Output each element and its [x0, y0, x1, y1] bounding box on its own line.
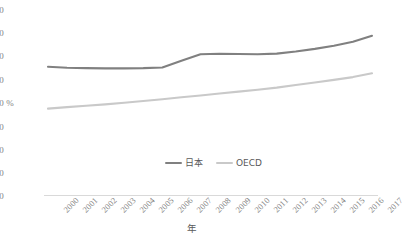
- y-tick-label: 20: [0, 146, 4, 155]
- x-tick-label: 2005: [157, 196, 176, 215]
- x-tick-label: 2006: [176, 196, 195, 215]
- x-tick-label: 2017: [386, 196, 405, 215]
- y-tick-label: 10: [0, 169, 4, 178]
- legend-swatch-icon: [216, 162, 233, 164]
- x-tick-label: 2002: [100, 196, 119, 215]
- y-tick-label: 50: [0, 76, 4, 85]
- y-axis-title: %: [3, 99, 17, 108]
- x-tick-label: 2001: [81, 196, 100, 215]
- legend-item-oecd: OECD: [216, 158, 262, 168]
- x-axis-title: 年: [0, 223, 384, 234]
- x-tick-label: 2008: [215, 196, 234, 215]
- legend-item-japan: 日本: [165, 158, 203, 168]
- series-line-japan: [48, 36, 372, 69]
- x-tick-label: 2003: [119, 196, 138, 215]
- y-tick-label: 80: [0, 6, 4, 15]
- x-tick-label: 2010: [253, 196, 272, 215]
- legend-label: OECD: [236, 158, 262, 168]
- chart-legend: 日本 OECD: [165, 158, 262, 168]
- y-tick-label: 30: [0, 123, 4, 132]
- y-tick-label: 70: [0, 29, 4, 38]
- x-tick-label: 2016: [367, 196, 386, 215]
- x-tick-label: 2013: [310, 196, 329, 215]
- x-tick-label: 2015: [348, 196, 367, 215]
- series-line-oecd: [48, 73, 372, 108]
- x-tick-label: 2004: [138, 196, 157, 215]
- legend-swatch-icon: [165, 162, 182, 164]
- x-tick-label: 2009: [234, 196, 253, 215]
- x-tick-label: 2007: [196, 196, 215, 215]
- legend-label: 日本: [185, 158, 203, 168]
- x-tick-label: 2014: [329, 196, 348, 215]
- y-tick-label: 60: [0, 52, 4, 61]
- x-tick-label: 2012: [291, 196, 310, 215]
- x-tick-label: 2011: [272, 196, 290, 214]
- x-tick-label: 2000: [62, 196, 81, 215]
